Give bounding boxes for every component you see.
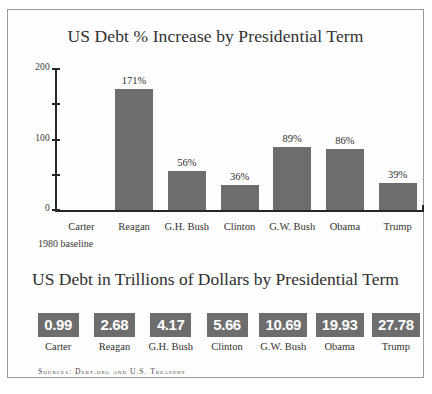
y-tick-label-0: 0 xyxy=(14,203,50,213)
debt-value-carter: 0.99 xyxy=(38,313,79,337)
bar-value-label-trump: 39% xyxy=(368,169,428,180)
sources-note: Sources: Debt.org and U.S. Treasury xyxy=(38,367,186,376)
bar-value-label-g-h-bush: 56% xyxy=(157,157,217,168)
debt-value-clinton: 5.66 xyxy=(207,313,248,337)
bar-value-label-reagan: 171% xyxy=(104,75,164,86)
bar-value-label-obama: 86% xyxy=(315,135,375,146)
baseline-annotation: 1980 baseline xyxy=(38,238,93,249)
x-axis-category-labels: CarterReaganG.H. BushClintonG.W. BushOba… xyxy=(30,221,424,235)
debt-label-trump: Trump xyxy=(356,341,432,352)
debt-value-reagan: 2.68 xyxy=(94,313,135,337)
bar-value-label-g-w-bush: 89% xyxy=(262,133,322,144)
debt-value-trump: 27.78 xyxy=(372,313,420,337)
debt-value-category-labels: CarterReaganG.H. BushClintonG.W. BushOba… xyxy=(30,341,424,355)
bar-obama xyxy=(326,149,364,210)
infographic-panel: US Debt % Increase by Presidential Term … xyxy=(7,9,424,378)
debt-value-g-w-bush: 10.69 xyxy=(259,313,307,337)
debt-value-boxes: 0.992.684.175.6610.6919.9327.78 xyxy=(30,313,424,340)
x-label-trump: Trump xyxy=(358,221,432,232)
bar-g-h-bush xyxy=(168,171,206,210)
bar-g-w-bush xyxy=(273,147,311,210)
bar-clinton xyxy=(221,185,259,210)
x-axis-line xyxy=(55,210,424,212)
bar-reagan xyxy=(115,89,153,210)
debt-value-g-h-bush: 4.17 xyxy=(150,313,191,337)
bar-trump xyxy=(379,183,417,210)
y-tick-label-100: 100 xyxy=(14,133,50,143)
y-tick-label-200: 200 xyxy=(14,62,50,72)
bar-chart-title: US Debt % Increase by Presidential Term xyxy=(8,26,423,47)
debt-values-title: US Debt in Trillions of Dollars by Presi… xyxy=(8,269,423,290)
debt-value-obama: 19.93 xyxy=(316,313,364,337)
bar-value-label-clinton: 36% xyxy=(210,171,270,182)
